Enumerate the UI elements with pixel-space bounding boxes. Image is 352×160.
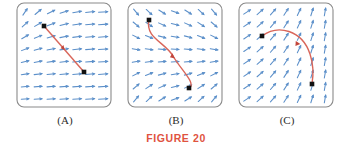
panel-labels: (A) (B) (C) — [0, 112, 352, 132]
panel-a-end-point — [82, 70, 87, 75]
panel-row — [0, 0, 352, 118]
panel-a-plot — [14, 0, 116, 112]
figure-caption: FIGURE 20 — [0, 132, 352, 144]
panel-b — [125, 0, 227, 112]
panel-c-end-point — [310, 82, 315, 87]
figure-20: (A) (B) (C) FIGURE 20 — [0, 0, 352, 160]
panel-a-frame — [17, 3, 111, 107]
panel-label-b: (B) — [125, 112, 227, 132]
panel-b-end-point — [187, 86, 192, 91]
panel-a-start-point — [42, 24, 47, 29]
panel-b-start-point — [147, 18, 152, 23]
panel-a — [14, 0, 116, 112]
panel-c — [236, 0, 338, 112]
panel-c-start-point — [260, 34, 265, 39]
panel-c-frame — [239, 3, 333, 107]
panel-label-c: (C) — [236, 112, 338, 132]
panel-b-plot — [125, 0, 227, 112]
panel-c-plot — [236, 0, 338, 112]
panel-b-frame — [128, 3, 222, 107]
panel-label-a: (A) — [14, 112, 116, 132]
